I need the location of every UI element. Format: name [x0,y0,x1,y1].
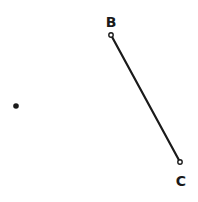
free-point-dot [13,103,19,109]
point-c-marker [178,160,182,164]
segment-bc [111,35,180,162]
point-c-label: C [176,173,186,189]
point-b-marker [109,33,113,37]
geometry-diagram: B C [0,0,198,202]
point-b-label: B [106,14,117,30]
